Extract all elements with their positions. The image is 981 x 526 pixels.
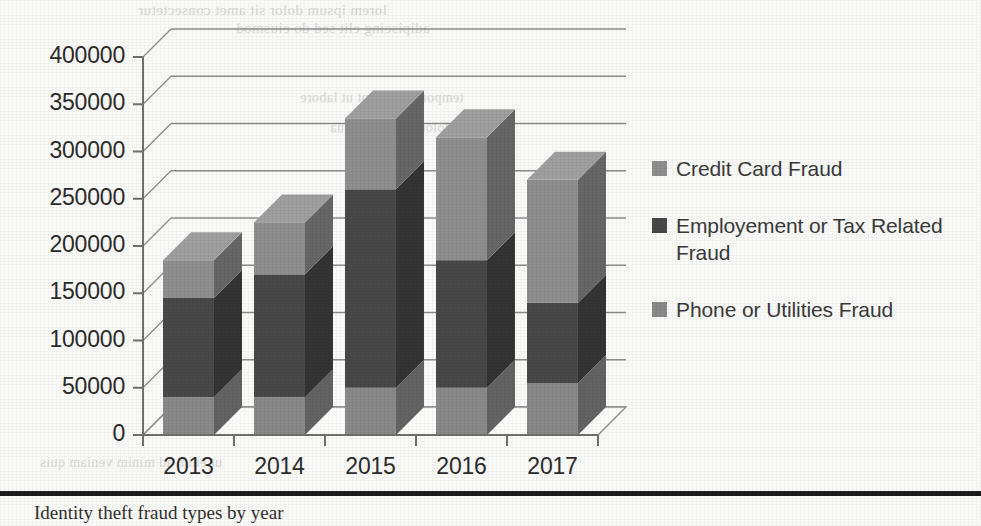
- page-divider-rule: [0, 491, 981, 496]
- y-axis-tick-label: 150000: [13, 278, 125, 305]
- bar-2016: [436, 109, 515, 435]
- legend-label: Phone or Utilities Fraud: [676, 297, 893, 324]
- legend-swatch-icon: [652, 218, 667, 233]
- bar-2015: [345, 90, 424, 435]
- y-axis-tick-label: 0: [13, 420, 125, 447]
- chart-legend: Credit Card Fraud Employement or Tax Rel…: [652, 156, 972, 354]
- y-axis-tick-label: 250000: [13, 184, 125, 211]
- page-footer-text: Identity theft fraud types by year: [34, 502, 284, 526]
- legend-item: Phone or Utilities Fraud: [652, 297, 972, 324]
- y-axis-tick-label: 350000: [13, 89, 125, 116]
- x-axis-tick-label: 2015: [326, 453, 416, 480]
- legend-label: Credit Card Fraud: [676, 156, 842, 183]
- y-axis-tick-label: 100000: [13, 326, 125, 353]
- x-axis-tick-label: 2013: [144, 453, 234, 480]
- y-axis-tick-label: 300000: [13, 137, 125, 164]
- legend-item: Employement or Tax Related Fraud: [652, 213, 972, 267]
- legend-label: Employement or Tax Related Fraud: [676, 213, 946, 267]
- legend-swatch-icon: [652, 302, 667, 317]
- x-axis-tick-label: 2014: [235, 453, 325, 480]
- y-axis-tick-label: 50000: [13, 373, 125, 400]
- y-axis-tick-label: 400000: [13, 42, 125, 69]
- y-axis-tick-label: 200000: [13, 231, 125, 258]
- legend-item: Credit Card Fraud: [652, 156, 972, 183]
- bar-2014: [254, 194, 333, 435]
- x-axis-tick-label: 2016: [417, 453, 507, 480]
- bar-2017: [527, 152, 606, 435]
- legend-swatch-icon: [652, 161, 667, 176]
- bars-group: [163, 90, 606, 435]
- x-axis-tick-label: 2017: [508, 453, 598, 480]
- page-canvas: lorem ipsum dolor sit amet consectetur a…: [0, 0, 981, 526]
- bar-2013: [163, 232, 242, 435]
